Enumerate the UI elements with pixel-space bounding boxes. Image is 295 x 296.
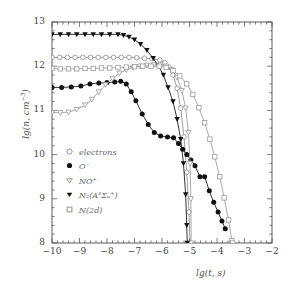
data-point [69,84,74,89]
data-point [171,135,176,140]
data-point [118,79,123,84]
x-tick-label: −7 [124,246,146,256]
data-point [133,98,138,103]
data-point [50,85,55,90]
figure-container: lg(n, cm−3) lg(t, s) electrons O⁻ NO⁺ N [0,0,295,296]
data-point [161,73,166,78]
data-point [184,170,189,175]
data-point [149,64,153,68]
legend-label-n2d: N(2d) [76,206,102,215]
y-tick-label: 9 [27,193,45,203]
data-point [117,71,122,76]
data-point [58,67,62,71]
data-point [191,92,195,96]
data-point [187,161,192,166]
data-point [176,141,181,146]
data-point [87,81,92,86]
data-point [50,55,55,60]
data-point [140,111,145,116]
data-point [180,147,185,152]
data-point [202,121,206,125]
data-point [184,223,189,228]
data-point [208,137,212,141]
x-tick-label: −10 [41,246,63,256]
data-point [126,35,131,40]
legend-item-no-plus: NO⁺ [62,174,118,189]
open-square-icon [62,205,76,216]
data-point [186,130,191,135]
data-point [164,65,168,69]
filled-down-triangle-icon [62,190,76,201]
data-point [96,80,101,85]
data-point [108,66,112,70]
chart-legend: electrons O⁻ NO⁺ N₂(A³Σᵤ⁺) N(2d) [62,145,118,218]
data-point [179,88,184,93]
y-tick-label: 8 [27,237,45,247]
data-point [73,55,78,60]
data-point [132,64,136,68]
data-point [129,89,134,94]
legend-label-no-plus: NO⁺ [76,177,97,186]
data-point [188,197,193,202]
data-point [223,226,228,231]
data-point [207,188,212,193]
y-tick-label: 11 [27,104,45,114]
data-point [197,106,201,110]
data-point [116,65,120,69]
x-tick-label: −4 [206,246,228,256]
data-point [184,152,189,157]
legend-label-n2-a-state: N₂(A³Σᵤ⁺) [76,191,118,200]
data-point [211,200,216,205]
legend-item-n2d: N(2d) [62,203,118,218]
data-point [119,55,124,60]
data-point [127,55,132,60]
data-point [174,117,179,122]
data-point [230,241,234,245]
filled-circle-icon [62,161,76,172]
data-point [50,66,54,70]
data-point [165,85,170,90]
x-tick-label: −2 [261,246,283,256]
data-point [99,66,103,70]
data-point [181,161,186,166]
data-point [165,134,170,139]
data-point [59,85,64,90]
data-point [134,56,139,61]
x-axis-label: lg(t, s) [196,268,226,278]
data-point [158,58,163,63]
data-point [146,122,151,127]
x-tick-label: −8 [96,246,118,256]
data-point [96,55,101,60]
data-point [218,175,222,179]
data-point [219,218,224,223]
open-circle-icon [62,147,76,158]
x-tick-label: −9 [69,246,91,256]
x-tick-label: −5 [179,246,201,256]
data-point [57,55,62,60]
data-point [91,66,95,70]
data-point [197,174,202,179]
data-point [202,174,207,179]
legend-item-o-minus: O⁻ [62,160,118,175]
data-point [124,65,128,69]
data-point [142,56,147,61]
data-point [183,192,188,197]
data-point [88,55,93,60]
data-point [132,37,137,42]
data-point [66,67,70,71]
data-point [185,82,189,86]
data-point [216,210,221,215]
legend-label-electrons: electrons [76,148,117,157]
data-point [157,64,161,68]
data-point [170,99,175,104]
data-point [183,106,188,111]
data-point [81,55,86,60]
data-point [158,134,163,139]
open-down-triangle-icon [62,176,76,187]
data-point [78,84,83,89]
data-point [213,155,217,159]
data-point [104,55,109,60]
data-point [82,103,87,108]
legend-item-n2-a-state: N₂(A³Σᵤ⁺) [62,189,118,204]
legend-label-o-minus: O⁻ [76,162,90,171]
